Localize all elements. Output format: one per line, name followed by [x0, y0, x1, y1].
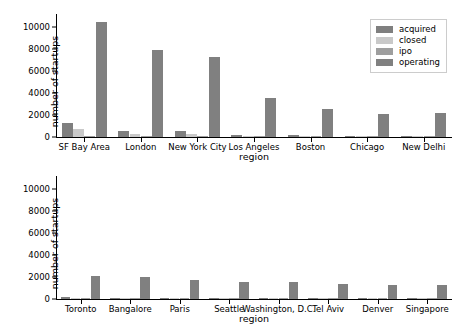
bar-operating	[190, 280, 200, 299]
bar-ipo	[254, 136, 265, 137]
bar-acquired	[110, 298, 120, 299]
bar-operating	[378, 114, 389, 137]
bar-acquired	[61, 297, 71, 299]
bar-ipo	[367, 136, 378, 137]
subplot-top: number of startups 020004000600080001000…	[0, 0, 459, 162]
bar-operating	[140, 277, 150, 299]
x-tick-label: Denver	[362, 305, 393, 314]
legend-label: operating	[399, 58, 440, 67]
bar-acquired	[118, 131, 129, 137]
legend-label: acquired	[399, 25, 436, 34]
legend-swatch-icon	[376, 48, 393, 55]
bar-closed	[318, 298, 328, 299]
bar-acquired	[62, 123, 73, 137]
bar-closed	[299, 136, 310, 137]
bar-closed	[71, 298, 81, 299]
bar-acquired	[358, 298, 368, 299]
y-tick-label: 8000	[28, 45, 50, 54]
bar-ipo	[81, 298, 91, 299]
bar-acquired	[259, 298, 269, 299]
bar-ipo	[378, 298, 388, 299]
bar-closed	[417, 298, 427, 299]
x-axis-title-top: region	[56, 152, 452, 162]
bar-closed	[170, 298, 180, 299]
subplot-bottom: number of startups 020004000600080001000…	[0, 162, 459, 324]
bar-acquired	[345, 136, 356, 137]
x-tick-label: Tel Aviv	[312, 305, 344, 314]
bar-operating	[209, 57, 220, 137]
bar-ipo	[328, 298, 338, 299]
x-tick-label: Paris	[170, 305, 190, 314]
y-tick-label: 4000	[28, 89, 50, 98]
bar-closed	[130, 134, 141, 137]
legend-swatch-icon	[376, 37, 393, 44]
bar-acquired	[288, 135, 299, 137]
bar-acquired	[308, 298, 318, 299]
bar-closed	[356, 136, 367, 137]
bar-operating	[239, 282, 249, 299]
legend-item-operating: operating	[376, 57, 440, 68]
bar-closed	[219, 298, 229, 299]
figure-canvas: number of startups 020004000600080001000…	[0, 0, 459, 324]
y-tick-label: 6000	[28, 229, 50, 238]
x-tick-label: Boston	[296, 143, 325, 152]
x-tick-label: Bangalore	[109, 305, 152, 314]
bar-ipo	[311, 136, 322, 137]
bar-operating	[338, 284, 348, 299]
bar-acquired	[160, 298, 170, 299]
bar-operating	[388, 285, 398, 299]
y-tick-label: 10000	[23, 185, 50, 194]
bar-closed	[120, 298, 130, 299]
x-tick-label: New York City	[168, 143, 226, 152]
x-tick-label: Singapore	[406, 305, 449, 314]
y-tick-label: 2000	[28, 111, 50, 120]
bar-operating	[437, 285, 447, 299]
x-axis-title-bottom: region	[56, 314, 452, 324]
bar-closed	[243, 136, 254, 137]
legend-item-ipo: ipo	[376, 46, 440, 57]
bar-operating	[289, 282, 299, 299]
bar-ipo	[180, 298, 190, 299]
bar-acquired	[231, 135, 242, 137]
bar-operating	[265, 98, 276, 137]
bar-ipo	[84, 136, 95, 137]
y-tick-label: 0	[45, 295, 50, 304]
legend-swatch-icon	[376, 59, 393, 66]
bar-operating	[96, 22, 107, 137]
legend-swatch-icon	[376, 26, 393, 33]
legend-item-acquired: acquired	[376, 24, 440, 35]
bar-acquired	[209, 298, 219, 299]
bar-ipo	[141, 136, 152, 137]
bar-closed	[73, 129, 84, 137]
x-axis-spine-bottom	[56, 299, 452, 300]
x-tick-label: New Delhi	[402, 143, 445, 152]
y-tick-label: 0	[45, 133, 50, 142]
x-tick-label: Toronto	[65, 305, 96, 314]
bar-ipo	[197, 136, 208, 137]
bar-acquired	[175, 131, 186, 137]
x-tick-label: London	[125, 143, 156, 152]
y-tick-label: 2000	[28, 273, 50, 282]
bar-ipo	[424, 136, 435, 137]
bar-acquired	[401, 136, 412, 137]
legend-label: ipo	[399, 47, 412, 56]
bar-operating	[91, 276, 101, 299]
y-tick-label: 10000	[23, 23, 50, 32]
bar-closed	[186, 134, 197, 137]
bar-closed	[412, 136, 423, 137]
bar-ipo	[130, 298, 140, 299]
bar-ipo	[229, 298, 239, 299]
x-tick-label: Chicago	[350, 143, 384, 152]
plot-area-bottom	[56, 178, 452, 299]
y-tick-label: 4000	[28, 251, 50, 260]
legend-item-closed: closed	[376, 35, 440, 46]
x-tick-label: SF Bay Area	[59, 143, 110, 152]
legend-top: acquiredclosedipooperating	[370, 19, 447, 73]
bar-ipo	[427, 298, 437, 299]
bar-ipo	[279, 298, 289, 299]
bar-operating	[152, 50, 163, 137]
bar-acquired	[407, 298, 417, 299]
y-tick-label: 6000	[28, 67, 50, 76]
y-tick-label: 8000	[28, 207, 50, 216]
bar-closed	[269, 298, 279, 299]
